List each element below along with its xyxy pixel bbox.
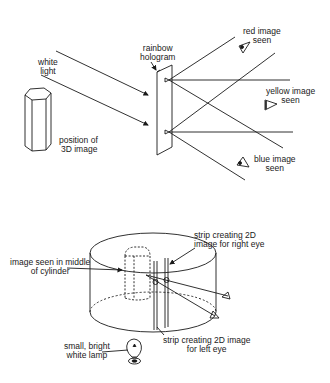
label-left-eye-strip: strip creating 2D image for left eye	[163, 336, 250, 353]
label-line: of cylinder	[10, 267, 90, 276]
label-line: hologram	[140, 53, 175, 62]
label-line: 3D image	[59, 145, 98, 154]
label-line: light	[38, 67, 58, 76]
rainbow-hologram-plate	[151, 62, 172, 155]
label-blue-image: blue image seen	[254, 155, 296, 172]
eye-icon-blue	[237, 157, 249, 167]
label-line: seen	[243, 36, 281, 45]
label-position-3d-image: position of 3D image	[59, 136, 98, 153]
label-rainbow-hologram: rainbow hologram	[140, 44, 175, 61]
label-line: seen	[266, 96, 315, 105]
dashed-inner-image	[125, 247, 150, 300]
label-line: for left eye	[163, 345, 250, 354]
label-red-image: red image seen	[243, 27, 281, 44]
label-lamp: small, bright white lamp	[64, 342, 110, 359]
label-line: seen	[254, 164, 296, 173]
label-right-eye-strip: strip creating 2D image for right eye	[194, 231, 264, 248]
lamp-icon	[127, 339, 142, 364]
label-yellow-image: yellow image seen	[266, 87, 315, 104]
leader-left-strip	[157, 327, 164, 335]
label-line: image for right eye	[194, 240, 264, 249]
hexagonal-prism-icon	[25, 88, 51, 151]
vertical-strips	[153, 258, 169, 330]
leader-right-strip	[170, 248, 195, 264]
label-image-middle-cylinder: image seen in middle of cylinder	[10, 258, 90, 275]
label-line: white lamp	[64, 351, 110, 360]
label-white-light: white light	[38, 58, 58, 75]
